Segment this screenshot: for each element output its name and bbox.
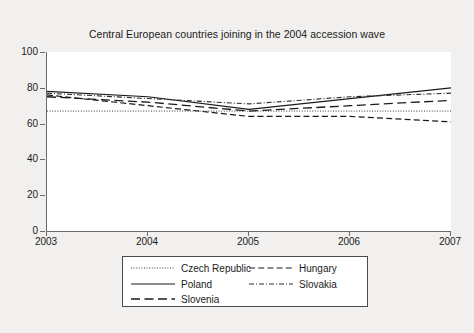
legend-swatch-icon	[249, 263, 293, 273]
x-tick-label: 2004	[117, 236, 177, 247]
series-line-poland	[47, 88, 451, 109]
series-line-hungary	[47, 95, 451, 122]
y-axis-ticks	[0, 52, 46, 232]
legend-label: Slovenia	[181, 294, 219, 305]
legend-item-hungary[interactable]: Hungary	[249, 261, 337, 275]
x-tick-label: 2006	[319, 236, 379, 247]
legend-label: Hungary	[299, 263, 337, 274]
legend-swatch-icon	[131, 294, 175, 304]
plot-area	[46, 52, 451, 232]
x-tick-label: 2005	[218, 236, 278, 247]
chart-title: Central European countries joining in th…	[0, 28, 474, 40]
x-tick-label: 2007	[420, 236, 474, 247]
y-tick-mark	[40, 52, 45, 53]
legend-swatch-icon	[131, 279, 175, 289]
legend-label: Slovakia	[299, 279, 337, 290]
legend-swatch-icon	[131, 263, 175, 273]
x-axis-labels: 20032004200520062007	[0, 236, 474, 250]
x-tick-label: 2003	[16, 236, 76, 247]
chart-legend: Czech RepublicPolandSloveniaHungarySlova…	[122, 256, 368, 307]
series-lines	[47, 52, 451, 231]
plot-inner	[47, 52, 451, 231]
y-tick-mark	[40, 124, 45, 125]
legend-item-slovenia[interactable]: Slovenia	[131, 292, 219, 306]
legend-item-poland[interactable]: Poland	[131, 277, 212, 291]
y-tick-mark	[40, 88, 45, 89]
legend-label: Czech Republic	[181, 263, 251, 274]
legend-label: Poland	[181, 279, 212, 290]
legend-item-czech-republic[interactable]: Czech Republic	[131, 261, 251, 275]
y-tick-mark	[40, 195, 45, 196]
legend-swatch-icon	[249, 279, 293, 289]
chart-figure: Central European countries joining in th…	[0, 0, 474, 333]
legend-item-slovakia[interactable]: Slovakia	[249, 277, 337, 291]
y-tick-mark	[40, 159, 45, 160]
